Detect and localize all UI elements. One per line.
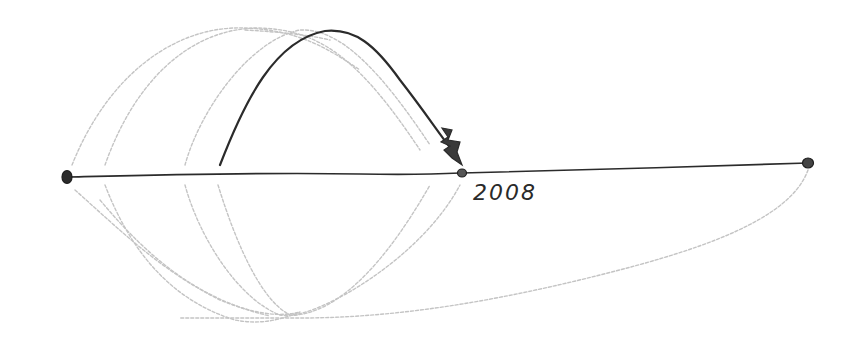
timeline-sketch — [0, 0, 863, 361]
end-point — [803, 158, 814, 168]
marker-2008-point — [458, 169, 467, 177]
faint-lower-arcs — [75, 170, 808, 322]
year-label: 2008 — [473, 180, 537, 205]
timeline-axis — [67, 163, 808, 177]
timeline-points — [62, 158, 814, 184]
start-point — [62, 171, 72, 184]
arrowhead-icon — [441, 128, 462, 165]
